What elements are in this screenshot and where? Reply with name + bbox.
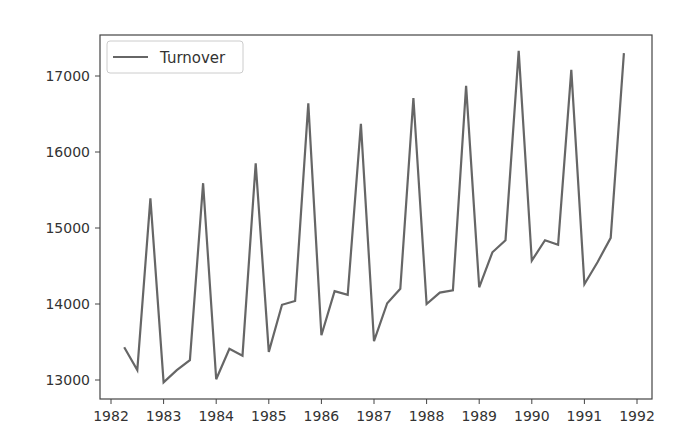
- x-tick-label: 1991: [567, 408, 603, 424]
- x-tick-label: 1987: [356, 408, 392, 424]
- x-tick-label: 1990: [514, 408, 550, 424]
- x-tick-label: 1986: [304, 408, 340, 424]
- x-tick-label: 1992: [619, 408, 655, 424]
- y-axis-ticks: 1300014000150001600017000: [45, 68, 100, 388]
- y-tick-label: 13000: [45, 372, 90, 388]
- y-tick-label: 17000: [45, 68, 90, 84]
- line-chart: 1982198319841985198619871988198919901991…: [0, 0, 680, 440]
- x-tick-label: 1984: [198, 408, 234, 424]
- legend-label: Turnover: [159, 49, 226, 67]
- y-tick-label: 16000: [45, 144, 90, 160]
- x-tick-label: 1983: [146, 408, 182, 424]
- y-tick-label: 14000: [45, 296, 90, 312]
- x-tick-label: 1985: [251, 408, 287, 424]
- x-tick-label: 1988: [409, 408, 445, 424]
- x-axis-ticks: 1982198319841985198619871988198919901991…: [93, 399, 655, 424]
- x-tick-label: 1989: [461, 408, 497, 424]
- y-tick-label: 15000: [45, 220, 90, 236]
- x-tick-label: 1982: [93, 408, 129, 424]
- legend: Turnover: [107, 41, 243, 73]
